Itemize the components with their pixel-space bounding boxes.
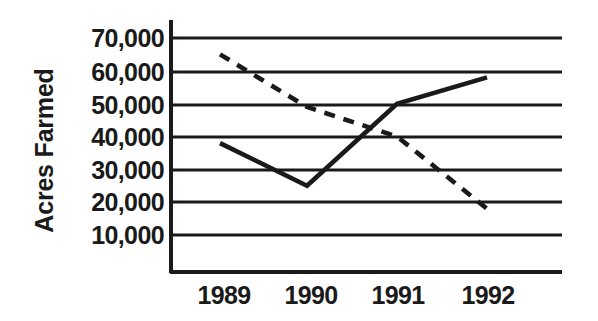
x-tick-label-1990: 1990 [284, 281, 337, 310]
x-tick-label-1992: 1992 [461, 281, 514, 310]
x-tick-label-1991: 1991 [371, 281, 424, 310]
x-tick-label-1989: 1989 [197, 281, 250, 310]
chart-container: Acres Farmed 70,000 60,000 50,000 40,000… [0, 0, 598, 321]
x-axis-tick-label-group: 1989 1990 1991 1992 [0, 0, 598, 321]
